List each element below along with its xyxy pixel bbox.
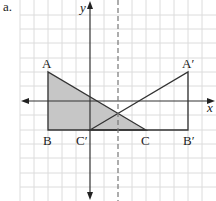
part-label: a.	[3, 0, 12, 14]
y-axis-down-arrow-icon	[87, 192, 93, 200]
reflection-diagram: a. y x A B C A′ B′ C′	[0, 0, 216, 201]
vertex-label-b-prime: B′	[183, 133, 195, 148]
y-axis-up-arrow-icon	[87, 1, 93, 9]
vertex-label-c: C	[141, 133, 150, 148]
vertex-label-b: B	[43, 133, 52, 148]
vertex-label-c-prime: C′	[76, 133, 88, 148]
x-axis-left-arrow-icon	[21, 98, 29, 104]
vertex-label-a-prime: A′	[182, 56, 194, 71]
x-axis-label: x	[206, 100, 213, 115]
vertex-label-a: A	[42, 56, 52, 71]
y-axis-label: y	[78, 0, 86, 15]
